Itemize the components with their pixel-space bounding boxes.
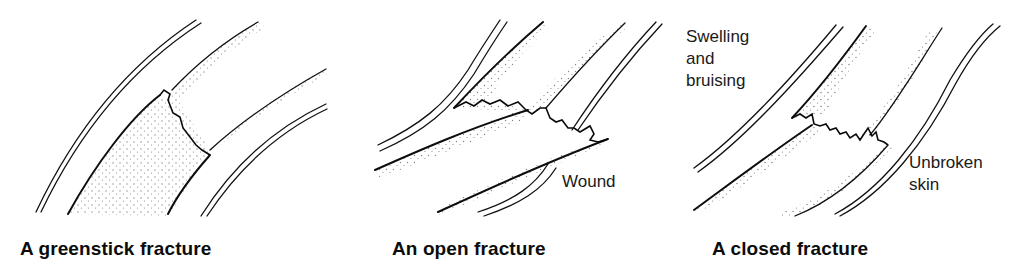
bone-lower-fragment: [692, 125, 892, 217]
caption-closed-fracture: A closed fracture: [712, 238, 868, 260]
panel-open-fracture: Wound An open fracture: [350, 0, 680, 274]
label-unbroken-skin: Unbroken skin: [909, 152, 983, 196]
open-fracture-illustration: [350, 0, 680, 230]
label-swelling-and-bruising: Swelling and bruising: [686, 26, 749, 92]
label-wound: Wound: [562, 171, 616, 193]
bone: [68, 22, 328, 216]
panel-greenstick-fracture: A greenstick fracture: [0, 0, 345, 274]
bone-lower-fragment: [375, 110, 608, 215]
skin-outline-right: [201, 104, 327, 216]
caption-open-fracture: An open fracture: [392, 238, 546, 260]
greenstick-fracture-illustration: [0, 0, 345, 230]
caption-greenstick-fracture: A greenstick fracture: [20, 238, 211, 260]
panel-closed-fracture: Swelling and bruising Unbroken skin A cl…: [680, 0, 1026, 274]
bone-upper-fragment: [792, 26, 942, 135]
